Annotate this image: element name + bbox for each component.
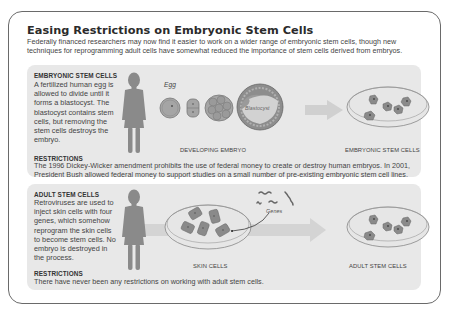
human-figure-icon [119,72,149,154]
adult-stem-cells-label: ADULT STEM CELLS [349,263,407,269]
genes-label: Genes [266,208,282,214]
adult-petri-dish-illustration [345,202,431,252]
embryonic-stem-cells-label: EMBRYONIC STEM CELLS [345,147,420,153]
infographic-title: Easing Restrictions on Embryonic Stem Ce… [27,24,313,37]
arrow-right-icon [305,100,345,120]
blastocyst-label: Blastocyst [245,105,270,111]
adult-restrictions-text: There have never been any restrictions o… [34,277,424,286]
adult-heading: ADULT STEM CELLS [34,191,99,198]
adult-restrictions-heading: RESTRICTIONS [34,270,83,277]
embryonic-stem-cells-panel: EMBRYONIC STEM CELLS A fertilized human … [27,65,421,177]
adult-stem-cells-panel: ADULT STEM CELLS Retroviruses are used t… [27,184,421,290]
embryonic-petri-dish-illustration [345,82,431,132]
developing-embryo-illustration [157,79,297,139]
embryonic-restrictions-text: The 1996 Dickey-Wicker amendment prohibi… [34,162,424,180]
human-figure-icon [119,189,149,271]
embryonic-heading: EMBRYONIC STEM CELLS [34,72,117,79]
embryonic-description: A fertilized human egg is allowed to div… [34,80,124,144]
skin-cells-label: SKIN CELLS [193,263,228,269]
adult-description: Retroviruses are used to inject skin cel… [34,198,116,262]
infographic-subtitle: Federally financed researchers may now f… [27,37,427,55]
developing-embryo-label: DEVELOPING EMBRYO [180,147,246,153]
